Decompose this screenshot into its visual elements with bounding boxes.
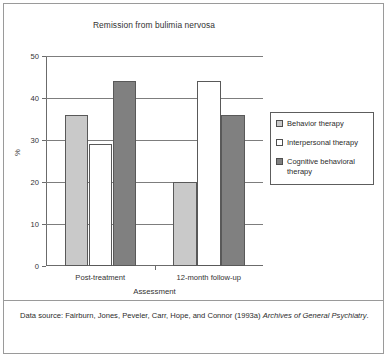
figure-container: Remission from bulimia nervosa % 0102030… [3,3,384,354]
y-tick-label: 10 [31,220,39,229]
plot-area: 01020304050 Post-treatment12-month follo… [46,56,263,266]
y-tick-label: 30 [31,136,39,145]
y-tick-mark [42,182,46,183]
bar [65,115,89,266]
chart-title: Remission from bulimia nervosa [4,20,304,30]
y-tick-mark [42,98,46,99]
bar [173,182,197,266]
y-tick-label: 0 [35,262,39,271]
y-tick-mark [42,56,46,57]
x-tick-label: 12-month follow-up [176,273,241,282]
y-tick-mark [42,140,46,141]
bar [197,81,221,266]
gridline [46,98,263,99]
legend-item: Cognitive behavioral therapy [276,157,368,177]
legend-label: Behavior therapy [287,119,344,129]
y-tick-mark [42,224,46,225]
legend-label: Cognitive behavioral therapy [287,157,368,177]
bar [113,81,137,266]
bar [221,115,245,266]
legend-swatch-behavior-therapy [276,120,283,127]
x-tick-label: Post-treatment [75,273,125,282]
gridline [46,56,263,57]
data-source-note: Data source: Fairburn, Jones, Peveler, C… [20,310,370,322]
legend-swatch-cognitive-behavioral-therapy [276,158,283,165]
legend-swatch-interpersonal-therapy [276,139,283,146]
source-journal-name: Archives of General Psychiatry [263,311,367,320]
x-axis-group-separator-tick [155,266,156,270]
source-suffix: . [367,311,369,320]
footer-divider [4,300,383,301]
y-tick-label: 50 [31,52,39,61]
bar [89,144,113,266]
source-prefix: Data source: Fairburn, Jones, Peveler, C… [20,311,263,320]
legend-item: Behavior therapy [276,119,368,129]
y-axis-title: % [13,149,22,156]
y-tick-mark [42,266,46,267]
legend: Behavior therapy Interpersonal therapy C… [270,112,374,185]
legend-label: Interpersonal therapy [287,138,358,148]
x-axis-title: Assessment [46,287,263,296]
y-tick-label: 20 [31,178,39,187]
y-tick-label: 40 [31,94,39,103]
legend-item: Interpersonal therapy [276,138,368,148]
